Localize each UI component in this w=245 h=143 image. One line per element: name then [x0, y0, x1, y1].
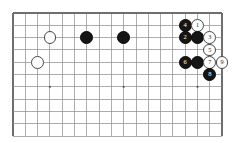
stone-black — [191, 31, 204, 44]
stone-white-move-9: 9 — [216, 56, 229, 69]
star-point — [123, 86, 125, 88]
go-diagram: 412356798 — [0, 0, 245, 143]
stone-white — [44, 31, 57, 44]
stone-white-move-1: 1 — [191, 19, 204, 32]
star-point — [49, 86, 51, 88]
stone-move-number: 6 — [184, 59, 187, 66]
stone-black — [117, 31, 130, 44]
stone-move-number: 3 — [208, 34, 211, 40]
stone-move-number: 7 — [208, 59, 211, 65]
star-point — [196, 86, 198, 88]
stone-move-number: 5 — [208, 47, 211, 53]
stone-white-move-7: 7 — [203, 56, 216, 69]
stone-black-move-6: 6 — [179, 56, 192, 69]
stone-white — [31, 56, 44, 69]
stone-move-number: 8 — [208, 71, 211, 78]
stone-move-number: 2 — [184, 34, 187, 41]
stone-move-number: 9 — [221, 59, 224, 65]
stone-black-move-2: 2 — [179, 31, 192, 44]
stone-black — [191, 56, 204, 69]
stone-black-move-8: 8 — [203, 68, 216, 81]
stone-black-move-4: 4 — [179, 19, 192, 32]
stone-move-number: 4 — [184, 22, 187, 29]
stone-move-number: 1 — [196, 22, 199, 28]
